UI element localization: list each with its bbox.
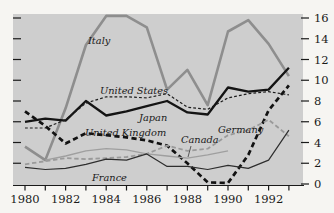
- x-tick-label: 1992: [254, 192, 283, 206]
- series-label-united-states: United States: [100, 85, 168, 96]
- series-label-italy: Italy: [87, 35, 111, 46]
- y-tick-label: 6: [314, 115, 321, 129]
- y-tick-label: 2: [314, 156, 321, 170]
- y-tick-label: 8: [314, 94, 321, 108]
- series-label-japan: Japan: [137, 112, 167, 123]
- series-label-france: France: [91, 172, 127, 183]
- x-tick-label: 1982: [51, 192, 80, 206]
- x-tick-label: 1984: [92, 192, 121, 206]
- x-tick-label: 1980: [10, 192, 39, 206]
- chart-canvas: 0246810121416198019821984198619881990199…: [0, 0, 334, 213]
- y-tick-label: 10: [314, 73, 329, 87]
- x-tick-label: 1988: [173, 192, 202, 206]
- x-tick-label: 1986: [132, 192, 161, 206]
- line-chart-figure: 0246810121416198019821984198619881990199…: [0, 0, 334, 213]
- x-axis-labels: 1980198219841986198819901992: [10, 192, 283, 206]
- y-tick-label: 16: [314, 11, 329, 25]
- series-label-united-kingdom: United Kingdom: [85, 127, 166, 138]
- y-tick-label: 12: [314, 53, 329, 67]
- y-tick-label: 14: [314, 32, 329, 46]
- y-tick-label: 0: [314, 177, 321, 191]
- y-tick-label: 4: [314, 136, 321, 150]
- x-tick-label: 1990: [213, 192, 242, 206]
- series-label-canada: Canada: [181, 134, 219, 145]
- series-label-germany: Germany: [218, 124, 264, 135]
- y-axis-labels: 0246810121416: [314, 11, 329, 191]
